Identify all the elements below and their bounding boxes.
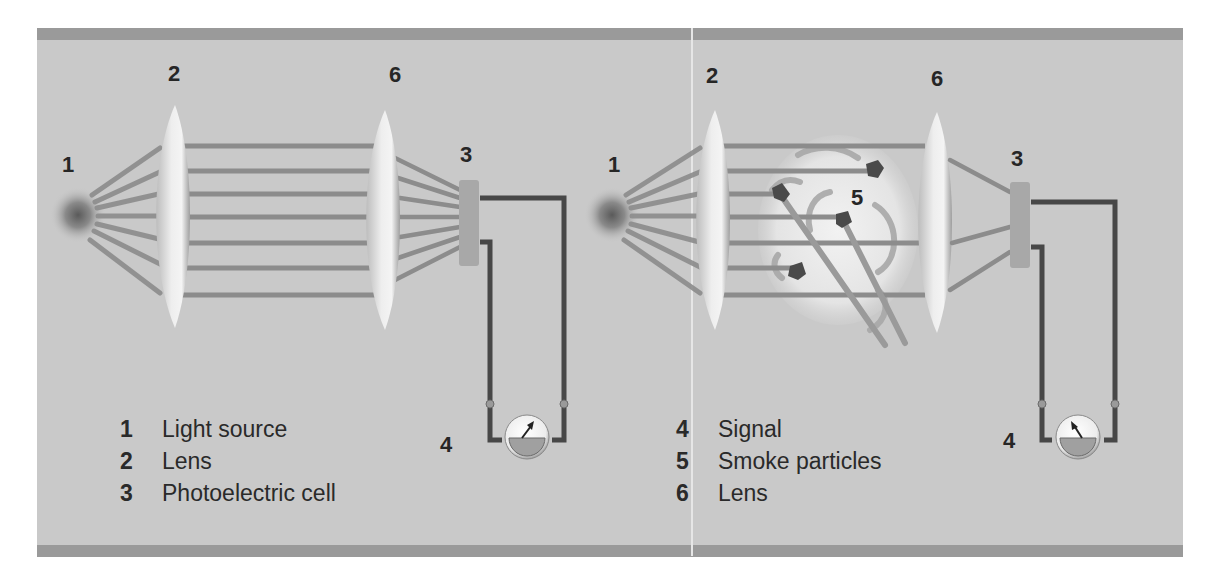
legend-item: 4 Signal (676, 413, 882, 445)
callout-cell: 3 (460, 142, 472, 167)
terminal-icon (1038, 400, 1046, 408)
callout-lens-6: 6 (389, 62, 401, 87)
signal-meter-icon (1056, 415, 1100, 459)
callout-light-source: 1 (62, 152, 74, 177)
converging-beams (395, 158, 460, 280)
legend-number: 2 (120, 445, 162, 477)
parallel-beams (180, 146, 380, 295)
legend-label: Lens (718, 477, 768, 509)
legend-number: 6 (676, 477, 718, 509)
left-legend: 1 Light source 2 Lens 3 Photoelectric ce… (120, 413, 336, 509)
legend-item: 6 Lens (676, 477, 882, 509)
terminal-icon (486, 400, 494, 408)
legend-label: Photoelectric cell (162, 477, 336, 509)
left-diagram: 1 2 6 3 4 (50, 61, 568, 459)
legend-item: 3 Photoelectric cell (120, 477, 336, 509)
legend-label: Light source (162, 413, 287, 445)
signal-meter-icon (505, 415, 549, 459)
terminal-icon (560, 400, 568, 408)
callout-light-source: 1 (608, 152, 620, 177)
converging-beams (950, 160, 1010, 290)
callout-lens-2: 2 (168, 61, 180, 86)
callout-signal: 4 (1003, 428, 1016, 453)
legend-number: 3 (120, 477, 162, 509)
legend-number: 5 (676, 445, 718, 477)
legend-number: 1 (120, 413, 162, 445)
legend-item: 2 Lens (120, 445, 336, 477)
legend-label: Signal (718, 413, 782, 445)
callout-lens-2: 2 (706, 63, 718, 88)
legend-item: 5 Smoke particles (676, 445, 882, 477)
legend-number: 4 (676, 413, 718, 445)
callout-smoke: 5 (851, 185, 863, 210)
legend-label: Smoke particles (718, 445, 882, 477)
callout-signal: 4 (440, 432, 453, 457)
legend-item: 1 Light source (120, 413, 336, 445)
right-diagram: 1 2 6 3 5 4 (584, 63, 1119, 459)
diagram-stage: 1 2 6 3 4 (0, 0, 1222, 586)
photoelectric-cell-icon (459, 180, 479, 266)
photoelectric-cell-icon (1010, 182, 1030, 268)
callout-cell: 3 (1011, 146, 1023, 171)
terminal-icon (1111, 400, 1119, 408)
right-legend: 4 Signal 5 Smoke particles 6 Lens (676, 413, 882, 509)
legend-label: Lens (162, 445, 212, 477)
callout-lens-6: 6 (931, 66, 943, 91)
